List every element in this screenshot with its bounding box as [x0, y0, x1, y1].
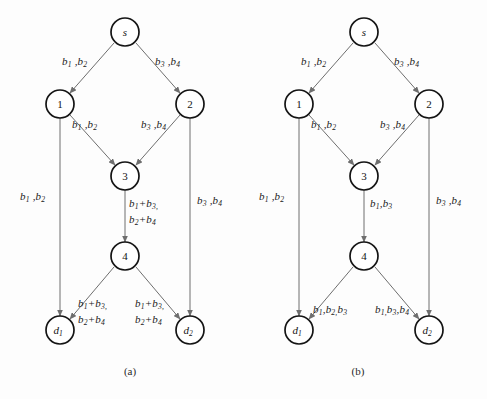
edge-label-n2-n3-b: b3 ,b4 — [380, 118, 405, 134]
caption-panel-a: (a) — [118, 365, 142, 377]
edge-label-n3-n4-a: b1+b3,b2+b4 — [129, 197, 158, 230]
edge-label-n1-d1-a: b1 ,b2 — [20, 190, 45, 206]
edge-label-s-n2-b: b3 ,b4 — [394, 55, 419, 71]
node-label-4-a: 4 — [122, 250, 128, 262]
edge-label-n2-d2-a: b3 ,b4 — [197, 194, 222, 210]
node-label-3-b: 3 — [361, 170, 367, 182]
edge-label-n4-d2-b: b1,b3,b4 — [375, 303, 409, 319]
network-coding-figure: s 1 2 3 4 d1 d2 s — [0, 0, 487, 399]
edge-label-s-n1-a: b1 ,b2 — [62, 55, 87, 71]
edge-label-n4-d1-b: b1,b2,b3 — [313, 303, 347, 319]
caption-panel-b: (b) — [346, 365, 370, 377]
node-label-3-a: 3 — [122, 170, 128, 182]
edge-label-s-n2-a: b3 ,b4 — [155, 55, 180, 71]
node-label-s-a: s — [123, 26, 127, 38]
edge-label-s-n1-b: b1 ,b2 — [301, 55, 326, 71]
node-label-1-b: 1 — [296, 98, 302, 110]
edge-label-n1-d1-b: b1 ,b2 — [259, 190, 284, 206]
node-label-2-a: 2 — [187, 98, 193, 110]
node-label-s-b: s — [362, 26, 366, 38]
edge-label-n1-n3-a: b1 ,b2 — [72, 118, 97, 134]
edge-label-n2-n3-a: b3 ,b4 — [141, 118, 166, 134]
edge-label-n2-d2-b: b3 ,b4 — [436, 194, 461, 210]
node-label-1-a: 1 — [57, 98, 63, 110]
node-label-2-b: 2 — [426, 98, 432, 110]
edge-label-n3-n4-b: b1,b3 — [370, 197, 392, 213]
node-label-4-b: 4 — [361, 250, 367, 262]
edge-label-n1-n3-b: b1 ,b2 — [311, 118, 336, 134]
edge-label-n4-d2-a: b1+b3,b2+b4 — [135, 297, 164, 330]
edge-label-n4-d1-a: b1+b3,b2+b4 — [78, 297, 107, 330]
